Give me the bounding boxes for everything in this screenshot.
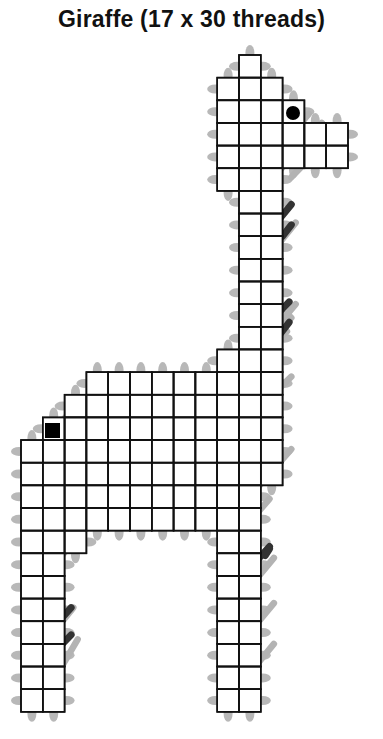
grid-cell — [261, 463, 283, 486]
grid-cell — [65, 395, 87, 418]
grid-cell — [239, 463, 261, 486]
grid-cell — [261, 395, 283, 418]
grid-cell — [239, 55, 261, 78]
grid-cell — [130, 508, 152, 531]
grid-cell — [195, 417, 217, 440]
grid-cell — [108, 463, 130, 486]
grid-cell — [43, 621, 65, 644]
grid-cell — [217, 100, 239, 123]
grid-cell — [239, 689, 261, 712]
grid-cell — [217, 689, 239, 712]
grid-cell — [43, 440, 65, 463]
grid-cell — [174, 417, 196, 440]
grid-cell — [174, 395, 196, 418]
grid-cell — [261, 349, 283, 372]
grid-cell — [21, 576, 43, 599]
grid-cell — [65, 417, 87, 440]
grid-cell — [217, 168, 239, 191]
grid-cell — [239, 78, 261, 101]
grid-cell — [239, 282, 261, 305]
grid-cell — [43, 576, 65, 599]
grid-cell — [195, 463, 217, 486]
grid-cell — [239, 553, 261, 576]
grid-cell — [239, 349, 261, 372]
grid-cell — [217, 440, 239, 463]
grid-cell — [261, 191, 283, 214]
giraffe-stitch-pattern — [0, 0, 383, 739]
grid-cell — [65, 440, 87, 463]
grid-cell — [86, 417, 108, 440]
grid-cell — [195, 508, 217, 531]
grid-cell — [43, 667, 65, 690]
grid-cell — [108, 485, 130, 508]
grid-cell — [43, 463, 65, 486]
grid-cell — [261, 259, 283, 282]
square-marker — [45, 423, 60, 438]
grid-cell — [217, 372, 239, 395]
grid-cell — [326, 123, 348, 146]
grid-cell — [21, 463, 43, 486]
grid-cell — [108, 395, 130, 418]
grid-cell — [21, 689, 43, 712]
grid-cell — [239, 644, 261, 667]
grid-cell — [43, 508, 65, 531]
grid-cell — [261, 327, 283, 350]
grid-cell — [43, 689, 65, 712]
grid-cell — [174, 485, 196, 508]
grid-cell — [239, 259, 261, 282]
grid-cell — [21, 644, 43, 667]
grid-cell — [21, 599, 43, 622]
grid-cell — [217, 395, 239, 418]
grid-cell — [261, 304, 283, 327]
grid-cell — [239, 599, 261, 622]
grid-cell — [304, 146, 326, 169]
grid-cell — [174, 463, 196, 486]
grid-cell — [261, 417, 283, 440]
grid-cell — [239, 395, 261, 418]
grid-cell — [130, 463, 152, 486]
grid-cell — [239, 576, 261, 599]
grid-cell — [217, 417, 239, 440]
grid-cell — [261, 236, 283, 259]
grid-cell — [195, 440, 217, 463]
grid-cell — [108, 440, 130, 463]
grid-cell — [21, 440, 43, 463]
grid-cell — [174, 372, 196, 395]
grid-cell — [65, 463, 87, 486]
grid-cell — [108, 508, 130, 531]
grid-cell — [261, 214, 283, 237]
grid-cell — [86, 372, 108, 395]
grid-cell — [239, 508, 261, 531]
grid-cell — [195, 395, 217, 418]
grid-cell — [261, 78, 283, 101]
grid-cell — [217, 667, 239, 690]
grid-cell — [239, 667, 261, 690]
grid-cell — [261, 100, 283, 123]
grid-cell — [43, 553, 65, 576]
grid-cell — [304, 123, 326, 146]
dark-stitch — [265, 549, 269, 556]
grid-cell — [21, 621, 43, 644]
grid-cell — [217, 621, 239, 644]
grid-cell — [130, 372, 152, 395]
grid-cell — [239, 100, 261, 123]
grid-cell — [217, 146, 239, 169]
grid-cell — [21, 531, 43, 554]
grid-cell — [152, 372, 174, 395]
grid-cell — [217, 599, 239, 622]
grid-cell — [239, 236, 261, 259]
grid-cell — [239, 146, 261, 169]
grid-cell — [239, 531, 261, 554]
grid-cell — [152, 395, 174, 418]
grid-cell — [130, 485, 152, 508]
grid-cell — [43, 599, 65, 622]
grid-cell — [261, 168, 283, 191]
grid-cell — [86, 395, 108, 418]
grid-cell — [261, 372, 283, 395]
grid-cell — [86, 440, 108, 463]
grid-cell — [152, 440, 174, 463]
grid-cell — [152, 508, 174, 531]
grid-cell — [217, 123, 239, 146]
grid-cell — [261, 282, 283, 305]
grid-cell — [239, 327, 261, 350]
